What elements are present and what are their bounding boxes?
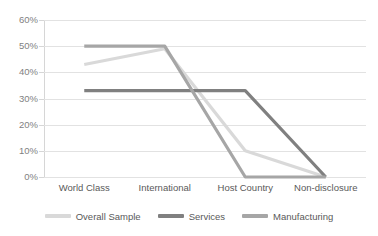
series-line bbox=[84, 46, 326, 177]
x-axis-tick-label: Non-disclosure bbox=[294, 181, 357, 194]
chart-legend: Overall SampleServicesManufacturing bbox=[0, 206, 378, 226]
y-axis-tick-label: 0% bbox=[4, 172, 38, 182]
x-axis-tick-label: International bbox=[139, 181, 191, 194]
legend-item[interactable]: Services bbox=[158, 211, 225, 222]
y-axis-labels: 60% 50% 40% 30% 20% 10% 0% bbox=[0, 20, 38, 178]
x-axis-labels: World Class International Host Country N… bbox=[44, 181, 366, 195]
y-axis-tick-label: 50% bbox=[4, 41, 38, 51]
legend-label: Overall Sample bbox=[76, 211, 141, 222]
legend-label: Manufacturing bbox=[273, 211, 333, 222]
legend-swatch bbox=[158, 214, 184, 218]
legend-label: Services bbox=[189, 211, 225, 222]
y-axis-tick-label: 10% bbox=[4, 146, 38, 156]
x-axis-tick-label: World Class bbox=[59, 181, 110, 194]
x-axis-tick-label: Host Country bbox=[218, 181, 273, 194]
legend-swatch bbox=[45, 214, 71, 218]
legend-item[interactable]: Manufacturing bbox=[242, 211, 333, 222]
series-lines bbox=[44, 20, 366, 177]
legend-item[interactable]: Overall Sample bbox=[45, 211, 141, 222]
legend-swatch bbox=[242, 214, 268, 218]
y-axis-tick-label: 40% bbox=[4, 67, 38, 77]
y-axis-tick-label: 30% bbox=[4, 94, 38, 104]
y-axis-tick-label: 20% bbox=[4, 120, 38, 130]
line-chart: 60% 50% 40% 30% 20% 10% 0% World Class I… bbox=[0, 0, 378, 236]
y-axis-tick-label: 60% bbox=[4, 15, 38, 25]
